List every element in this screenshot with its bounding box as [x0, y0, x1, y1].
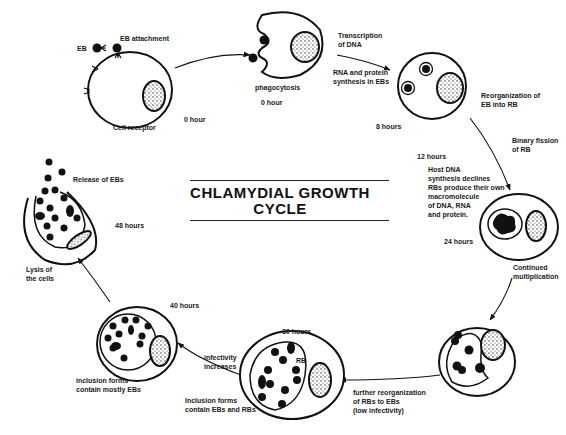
label-continued-multiplication: Continued multiplication	[513, 263, 559, 281]
diagram-title: CHLAMYDIAL GROWTH CYCLE	[175, 185, 385, 217]
host-cell-attachment	[84, 44, 172, 129]
host-cell-phagocytosis	[249, 12, 323, 78]
label-time-0h-b: 0 hour	[261, 98, 282, 107]
host-cell-reorganization	[398, 53, 466, 119]
title-line-1: CHLAMYDIAL GROWTH	[175, 185, 385, 201]
host-cell-multiplication	[439, 328, 515, 396]
label-inclusion-eb-rb: Inclusion forms contain EBs and RBs	[185, 396, 256, 414]
title-rule-top	[190, 180, 389, 181]
label-eb-attachment: EB attachment	[120, 34, 169, 43]
title-rule-bottom	[190, 220, 389, 221]
label-time-48h: 48 hours	[115, 221, 144, 230]
label-time-8h: 8 hours	[376, 122, 401, 131]
label-reorganization: Reorganization of EB into RB	[481, 91, 540, 109]
host-cell-inclusion-mostly-eb	[97, 307, 177, 381]
label-phagocytosis: phagocytosis	[255, 83, 300, 92]
label-inclusion-mostly-eb: inclusion forms contain mostly EBs	[76, 376, 141, 394]
label-host-dna-note: Host DNA synthesis declines RBs produce …	[428, 165, 505, 219]
label-time-40h: 40 hours	[170, 301, 199, 310]
label-further-reorganization: further reorganization of RBs to EBs (lo…	[353, 388, 426, 415]
label-time-30h: 30 hours	[282, 327, 311, 336]
title-line-2: CYCLE	[175, 201, 385, 217]
label-time-0h-a: 0 hour	[184, 115, 205, 124]
label-lysis: Lysis of the cells	[26, 265, 54, 283]
label-transcription: Transcription of DNA	[338, 31, 382, 49]
label-time-12h: 12 hours	[417, 152, 446, 161]
label-rb: RB	[296, 356, 306, 365]
label-eb: EB	[77, 44, 87, 53]
label-time-24h: 24 hours	[444, 237, 473, 246]
label-binary-fission: Binary fission of RB	[512, 136, 558, 154]
label-infectivity-increases: infectivity increases	[204, 353, 237, 371]
label-release-ebs: Release of EBs	[73, 175, 124, 184]
label-cell-receptor: Cell receptor	[113, 123, 156, 132]
label-rna-protein: RNA and protein synthesis in EBs	[333, 68, 389, 86]
